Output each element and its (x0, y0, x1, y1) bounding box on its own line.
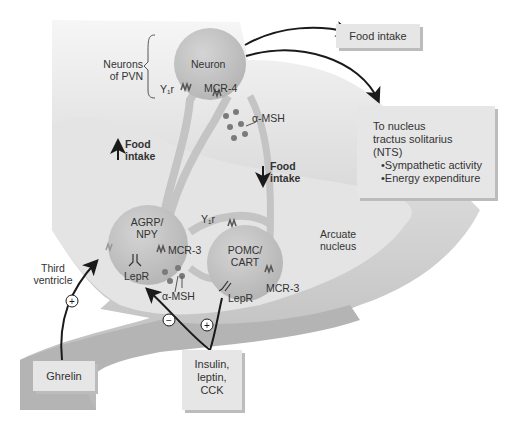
y1r-pomc-label: Y₁r (201, 213, 215, 225)
nts-bullet-sympathetic: •Sympathetic activity (373, 159, 482, 172)
nts-line2: tractus solitarius (373, 133, 482, 146)
ghrelin-plus-sign: + (66, 295, 78, 307)
third-ventricle-label: Third ventricle (28, 262, 78, 286)
mcr3-pomc-label: MCR-3 (266, 282, 299, 294)
food-intake-box: Food intake (336, 24, 420, 48)
increase-food-line2: intake (125, 150, 155, 162)
agrp-minus-sign: − (163, 314, 175, 326)
neurons-of-pvn-line1: Neurons (101, 58, 143, 70)
arrow-to-food-intake (245, 28, 348, 45)
third-ventricle-line1: Third (28, 262, 78, 274)
ghrelin-box: Ghrelin (33, 361, 95, 391)
neurons-of-pvn-label: Neurons of PVN (101, 58, 143, 82)
nts-line3: (NTS) (373, 146, 482, 159)
svg-text:+: + (69, 296, 75, 307)
mcr4-label: MCR-4 (204, 82, 237, 94)
third-ventricle-line2: ventricle (28, 274, 78, 286)
lepr-agrp-label: LepR (124, 270, 149, 282)
decrease-food-intake-label: Food intake (270, 160, 300, 184)
mcr3-agrp-label: MCR-3 (168, 244, 201, 256)
arcuate-line1: Arcuate (320, 228, 356, 240)
y1r-pvn-label: Y₁r (160, 83, 174, 95)
pvn-neuron-label: Neuron (191, 58, 225, 70)
signals-leptin: leptin, (182, 371, 242, 384)
lepr-pomc-label: LepR (228, 292, 253, 304)
arcuate-nucleus-label: Arcuate nucleus (320, 228, 356, 252)
signals-box: Insulin, leptin, CCK (182, 350, 242, 410)
svg-text:+: + (204, 320, 210, 331)
nts-text: To nucleus tractus solitarius (NTS) •Sym… (373, 120, 482, 185)
signals-cck: CCK (182, 384, 242, 397)
increase-food-intake-label: Food intake (125, 138, 155, 162)
pomc-plus-sign: + (201, 319, 213, 331)
alpha-msh-bottom-label: α-MSH (162, 290, 195, 302)
nts-bullet-energy: •Energy expenditure (373, 172, 482, 185)
neurons-of-pvn-line2: of PVN (101, 70, 143, 82)
alpha-msh-top-label: α-MSH (252, 112, 285, 124)
signals-insulin: Insulin, (182, 358, 242, 371)
nts-line1: To nucleus (373, 120, 482, 133)
arcuate-line2: nucleus (320, 240, 356, 252)
decrease-food-line1: Food (270, 160, 300, 172)
increase-food-line1: Food (125, 138, 155, 150)
svg-text:−: − (166, 315, 172, 326)
agrp-npy-label: AGRP/ NPY (122, 216, 172, 240)
nts-box: To nucleus tractus solitarius (NTS) •Sym… (357, 106, 495, 198)
pomc-cart-label: POMC/ CART (220, 244, 270, 268)
decrease-food-line2: intake (270, 172, 300, 184)
